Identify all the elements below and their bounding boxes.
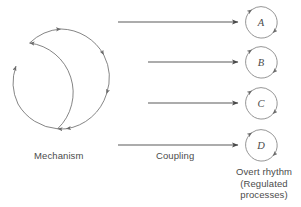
overt-rhythm-caption-line-2: (Regulated bbox=[228, 178, 300, 190]
rhythm-label-c: C bbox=[257, 98, 265, 109]
rhythm-label-b: B bbox=[258, 57, 265, 68]
overt-rhythm-caption-line-1: Overt rhythm bbox=[228, 166, 300, 178]
coupling-arrows bbox=[118, 22, 238, 145]
overt-rhythm-caption: Overt rhythm (Regulated processes) bbox=[228, 166, 300, 201]
diagram-canvas: A B C D Mechanism Coupling Overt rhythm … bbox=[0, 0, 301, 207]
coupling-label: Coupling bbox=[156, 150, 194, 161]
rhythm-label-d: D bbox=[256, 140, 265, 151]
overt-rhythm-caption-line-3: processes) bbox=[228, 189, 300, 201]
mechanism-label: Mechanism bbox=[34, 150, 83, 161]
rhythm-label-a: A bbox=[257, 17, 265, 28]
mechanism-loop bbox=[13, 29, 109, 129]
